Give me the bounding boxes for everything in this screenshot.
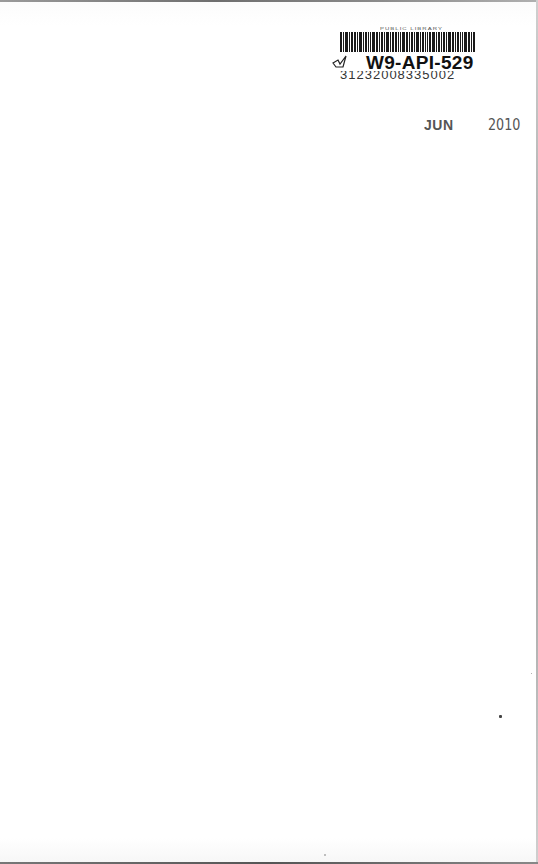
library-name: PUBLIC LIBRARY [380, 27, 443, 31]
date-stamp-month: JUN [424, 116, 454, 134]
dust-speck [324, 854, 326, 856]
date-stamp-year: 2010 [488, 116, 520, 134]
dust-speck [499, 715, 502, 718]
barcode [340, 32, 495, 52]
barcode-number: 31232008335002 [340, 71, 455, 81]
book-page: PUBLIC LIBRARY W9-API-529 31232008335002… [0, 0, 538, 864]
check-mark-icon [332, 55, 348, 69]
page-top-edge [0, 0, 538, 2]
dust-speck [531, 673, 532, 674]
library-barcode-sticker: PUBLIC LIBRARY W9-API-529 31232008335002 [340, 22, 512, 84]
